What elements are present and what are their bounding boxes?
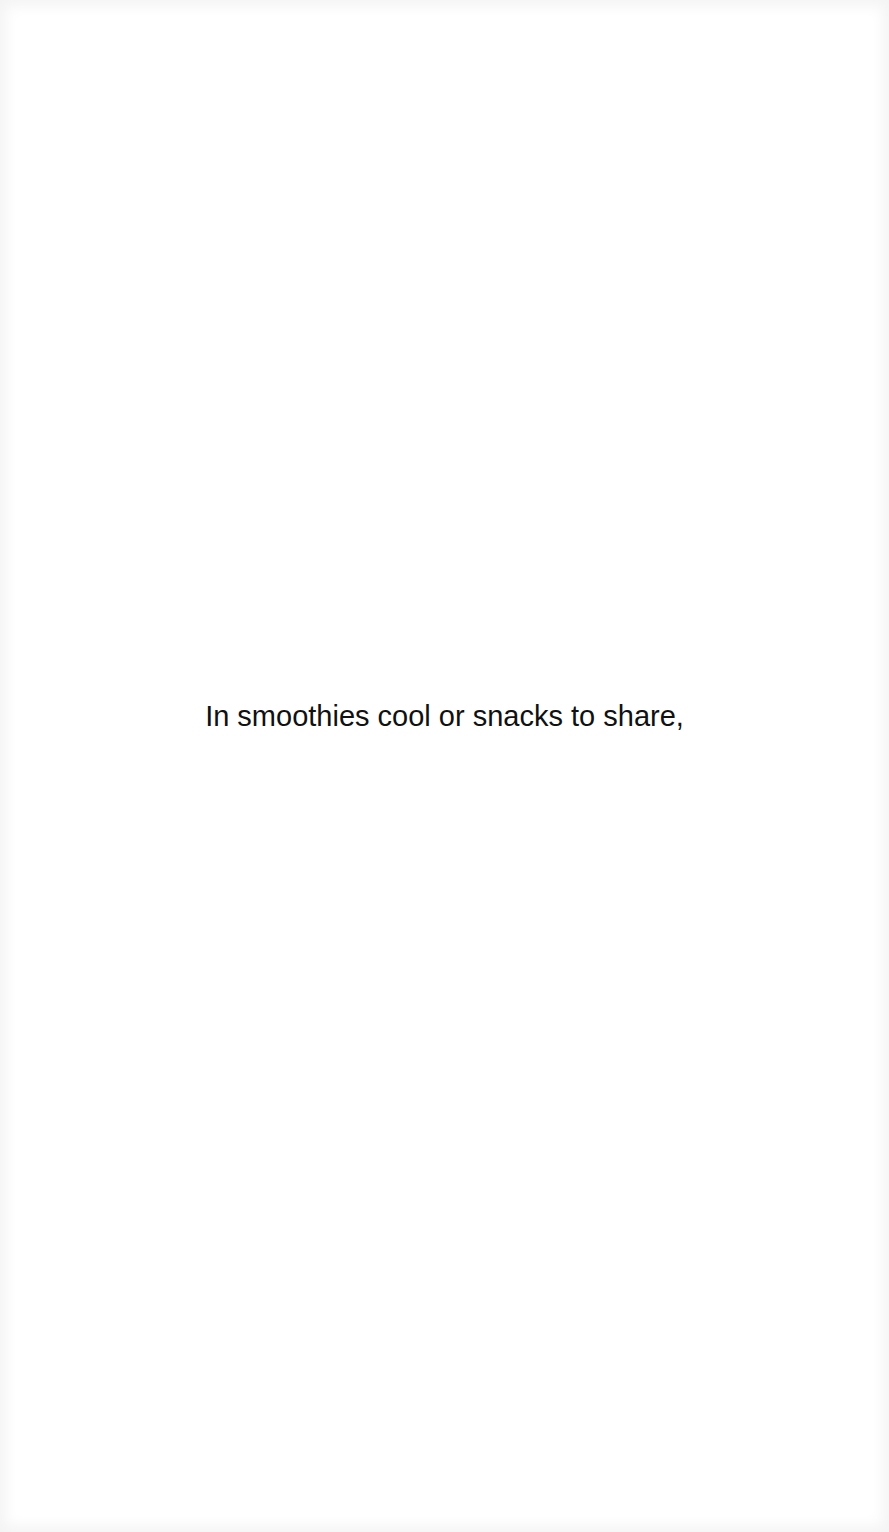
page: In smoothies cool or snacks to share, [0,0,889,1532]
poem-line: In smoothies cool or snacks to share, [0,698,889,734]
